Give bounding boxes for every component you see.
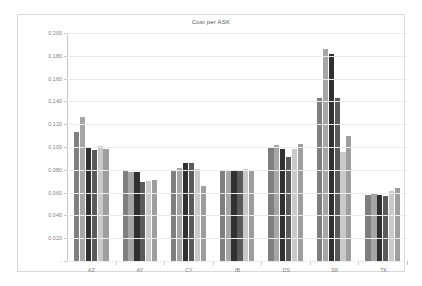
bar	[201, 186, 206, 261]
y-tick-mark	[64, 101, 67, 102]
y-tick-label: 0,180	[32, 53, 62, 59]
bar	[274, 145, 279, 261]
y-tick-mark	[64, 170, 67, 171]
bar	[286, 157, 291, 261]
bar	[98, 146, 103, 261]
y-tick-mark	[64, 124, 67, 125]
y-tick-label: 0,140	[32, 98, 62, 104]
x-tick-mark	[261, 262, 262, 265]
bar	[86, 148, 91, 261]
bar	[335, 98, 340, 261]
bar	[317, 98, 322, 261]
gridline	[67, 238, 407, 239]
bar	[298, 144, 303, 261]
bar	[189, 163, 194, 261]
bar	[74, 132, 79, 261]
bar	[268, 147, 273, 261]
bar	[346, 136, 351, 261]
bar	[365, 195, 370, 261]
y-tick-label: 0,160	[32, 76, 62, 82]
y-tick-label: -	[32, 258, 62, 264]
x-tick-mark	[164, 262, 165, 265]
y-tick-label: 0,120	[32, 121, 62, 127]
y-tick-label: 0,060	[32, 190, 62, 196]
bar	[103, 149, 108, 261]
x-tick-mark	[213, 262, 214, 265]
bar	[383, 196, 388, 261]
bar	[377, 195, 382, 261]
x-tick-mark	[407, 262, 408, 265]
category-label: IB	[213, 264, 262, 278]
gridline	[67, 124, 407, 125]
chart-frame: Cost per ASK AZAYCYIBDSSKTK 0,2000,1800,…	[17, 14, 405, 272]
category-label: TK	[359, 264, 408, 278]
gridline	[67, 261, 407, 262]
bar	[389, 191, 394, 261]
y-tick-mark	[64, 79, 67, 80]
bar	[323, 49, 328, 261]
gridline	[67, 147, 407, 148]
gridline	[67, 33, 407, 34]
category-axis: AZAYCYIBDSSKTK	[67, 264, 408, 278]
y-tick-mark	[64, 33, 67, 34]
y-tick-mark	[64, 238, 67, 239]
category-label: AY	[116, 264, 165, 278]
y-tick-label: 0,040	[32, 212, 62, 218]
y-tick-label: 0,100	[32, 144, 62, 150]
y-tick-label: 0,080	[32, 167, 62, 173]
bar	[340, 152, 345, 261]
y-tick-mark	[64, 215, 67, 216]
gridline	[67, 193, 407, 194]
gridline	[67, 79, 407, 80]
chart-container: Cost per ASK AZAYCYIBDSSKTK 0,2000,1800,…	[0, 0, 422, 286]
category-label: SK	[311, 264, 360, 278]
bar	[292, 149, 297, 261]
bar	[134, 172, 139, 261]
category-label: AZ	[67, 264, 116, 278]
bar	[371, 193, 376, 261]
x-tick-mark	[310, 262, 311, 265]
bar	[80, 117, 85, 261]
category-label: CY	[164, 264, 213, 278]
category-label: DS	[262, 264, 311, 278]
x-tick-mark	[116, 262, 117, 265]
bar	[128, 172, 133, 261]
y-tick-mark	[64, 261, 67, 262]
chart-title: Cost per ASK	[18, 19, 404, 25]
y-tick-mark	[64, 193, 67, 194]
y-tick-label: 0,020	[32, 235, 62, 241]
bar	[92, 150, 97, 261]
bar	[177, 168, 182, 261]
bar	[183, 163, 188, 261]
gridline	[67, 101, 407, 102]
gridline	[67, 170, 407, 171]
bar	[280, 149, 285, 261]
y-tick-mark	[64, 56, 67, 57]
bar	[329, 54, 334, 261]
x-tick-mark	[358, 262, 359, 265]
gridline	[67, 215, 407, 216]
y-tick-mark	[64, 147, 67, 148]
gridline	[67, 56, 407, 57]
bar	[395, 188, 400, 261]
bar	[140, 182, 145, 261]
y-tick-label: 0,200	[32, 30, 62, 36]
